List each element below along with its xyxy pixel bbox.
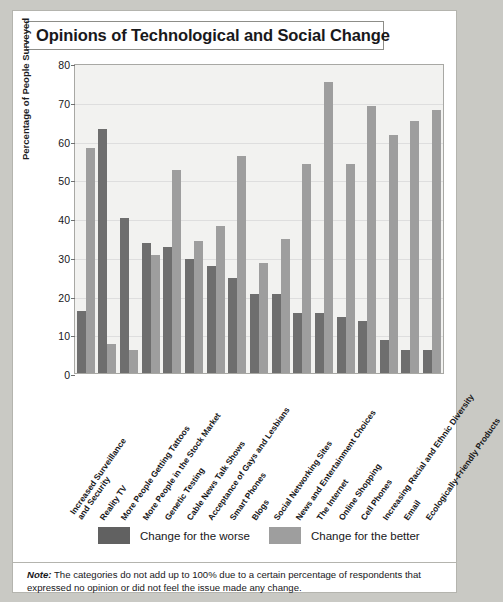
- y-axis-tick-label: 60: [58, 137, 70, 149]
- y-axis-tick-label: 30: [58, 253, 70, 265]
- bar-group: [140, 65, 162, 373]
- bar: [367, 106, 376, 373]
- legend-swatch-better: [269, 527, 301, 544]
- bar-group: [378, 65, 400, 373]
- x-axis-category-label: Blogs: [250, 498, 271, 522]
- bar-group: [118, 65, 140, 373]
- note-prefix: Note:: [27, 569, 52, 580]
- bar: [293, 313, 302, 373]
- bar-group: [183, 65, 205, 373]
- x-axis-label-line: Blogs: [250, 498, 271, 522]
- plot-outer: 01020304050607080: [74, 64, 444, 374]
- chart-legend: Change for the worse Change for the bett…: [26, 527, 444, 557]
- y-axis-tick-label: 80: [58, 59, 70, 71]
- note-text: The categories do not add up to 100% due…: [27, 569, 421, 593]
- note-divider: [13, 562, 456, 563]
- y-axis-tick-label: 20: [58, 292, 70, 304]
- bar: [107, 344, 116, 373]
- bar-group: [291, 65, 313, 373]
- bar: [324, 82, 333, 373]
- bar-group: [75, 65, 97, 373]
- bar: [163, 247, 172, 373]
- bar: [346, 164, 355, 373]
- chart-title-box: Opinions of Technological and Social Cha…: [26, 21, 384, 50]
- figure-card: Opinions of Technological and Social Cha…: [12, 10, 457, 593]
- bar: [207, 266, 216, 373]
- bar: [228, 278, 237, 373]
- y-axis-label: Percentage of People Surveyed: [20, 0, 31, 160]
- bar: [302, 164, 311, 373]
- bar-group: [335, 65, 357, 373]
- bar: [142, 243, 151, 373]
- legend-swatch-worse: [98, 527, 130, 544]
- bar: [237, 156, 246, 373]
- y-axis-tick-label: 0: [64, 369, 70, 381]
- bar: [358, 321, 367, 373]
- bar-group: [313, 65, 335, 373]
- bar: [120, 218, 129, 373]
- bar: [129, 350, 138, 373]
- bar: [151, 255, 160, 373]
- bar: [216, 226, 225, 373]
- bar: [281, 239, 290, 373]
- bar: [401, 350, 410, 373]
- bar-series-container: [75, 65, 443, 373]
- legend-label-worse: Change for the worse: [140, 530, 250, 542]
- plot-region: 01020304050607080: [74, 64, 444, 374]
- bar: [272, 294, 281, 373]
- bar-group: [356, 65, 378, 373]
- bar-group: [97, 65, 119, 373]
- x-axis-category-label: Email: [403, 498, 424, 522]
- bar: [185, 259, 194, 373]
- figure-note: Note: The categories do not add up to 10…: [27, 569, 447, 595]
- x-axis-category-labels: Increased Surveillanceand SecurityRealit…: [74, 376, 444, 526]
- y-axis-tick-label: 40: [58, 214, 70, 226]
- bar: [410, 121, 419, 373]
- bar: [337, 317, 346, 373]
- x-axis-label-line: Increasing Racial and Ethnic Diversity: [381, 392, 476, 522]
- bar: [250, 294, 259, 373]
- bar: [194, 241, 203, 373]
- y-axis-tick-label: 70: [58, 98, 70, 110]
- bar: [315, 313, 324, 373]
- chart-area: Percentage of People Surveyed 0102030405…: [26, 56, 444, 526]
- bar: [380, 340, 389, 373]
- bar-group: [226, 65, 248, 373]
- x-axis-category-label: Ecologically-Friendly Products: [424, 416, 502, 522]
- bar-group: [421, 65, 443, 373]
- legend-item-worse: Change for the worse: [98, 527, 250, 544]
- bar: [172, 170, 181, 373]
- y-axis-tick-label: 50: [58, 175, 70, 187]
- bar: [86, 148, 95, 373]
- x-axis-label-line: Ecologically-Friendly Products: [424, 416, 502, 522]
- bar-group: [400, 65, 422, 373]
- y-axis-tick-label: 10: [58, 330, 70, 342]
- page-title: Opinions of Technological and Social Cha…: [27, 26, 390, 45]
- bar-group: [205, 65, 227, 373]
- bar: [259, 263, 268, 373]
- bar: [389, 135, 398, 373]
- legend-label-better: Change for the better: [311, 530, 420, 542]
- x-axis-label-line: Email: [403, 498, 424, 522]
- bar-group: [162, 65, 184, 373]
- legend-item-better: Change for the better: [269, 527, 420, 544]
- bar: [432, 110, 441, 374]
- x-axis-label-line: Increased Surveillance: [68, 437, 128, 517]
- bar: [98, 129, 107, 373]
- x-axis-category-label: Increasing Racial and Ethnic Diversity: [381, 392, 476, 522]
- bar-group: [270, 65, 292, 373]
- bar: [77, 311, 86, 373]
- bar: [423, 350, 432, 373]
- bar-group: [248, 65, 270, 373]
